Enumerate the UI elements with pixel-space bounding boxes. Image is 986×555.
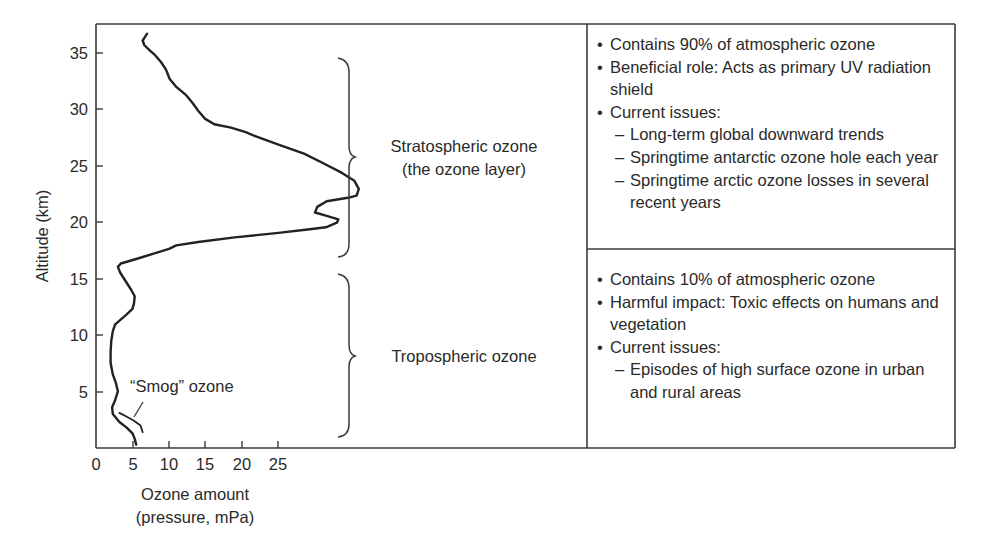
info-bullet: Current issues: — [597, 336, 949, 359]
y-axis-label: Altitude (km) — [33, 190, 51, 283]
stratosphere-label-line2: (the ozone layer) — [402, 160, 526, 178]
troposphere-label: Tropospheric ozone — [391, 347, 536, 365]
y-tick-label: 25 — [70, 157, 88, 175]
y-tick-label: 10 — [70, 326, 88, 344]
info-bullet: Contains 90% of atmospheric ozone — [597, 33, 949, 56]
info-subitem: Episodes of high surface ozone in urban … — [597, 358, 949, 403]
y-tick-label: 15 — [70, 270, 88, 288]
stratosphere-brace — [338, 58, 355, 257]
troposphere-brace — [338, 274, 355, 437]
stratosphere-label-line1: Stratospheric ozone — [391, 137, 538, 155]
y-tick-label: 35 — [70, 44, 88, 62]
x-tick-label: 10 — [160, 455, 178, 473]
x-axis-tick-labels: 0 5 10 15 20 25 — [91, 455, 287, 473]
tropospheric-info-panel: Contains 10% of atmospheric ozone Harmfu… — [597, 268, 949, 404]
x-tick-label: 15 — [196, 455, 214, 473]
y-tick-label: 30 — [70, 100, 88, 118]
info-bullet: Current issues: — [597, 101, 949, 124]
info-subitem: Springtime arctic ozone losses in severa… — [597, 169, 949, 214]
x-axis-label-line2: (pressure, mPa) — [136, 508, 254, 526]
info-bullet: Beneficial role: Acts as primary UV radi… — [597, 56, 949, 101]
x-tick-label: 5 — [128, 455, 137, 473]
smog-ozone-label: “Smog” ozone — [130, 377, 234, 395]
x-tick-label: 20 — [233, 455, 251, 473]
info-bullet: Harmful impact: Toxic effects on humans … — [597, 291, 949, 336]
y-tick-label: 20 — [70, 213, 88, 231]
y-axis-ticks — [96, 53, 103, 392]
info-subitem: Springtime antarctic ozone hole each yea… — [597, 146, 949, 169]
stratospheric-info-panel: Contains 90% of atmospheric ozone Benefi… — [597, 33, 949, 214]
y-tick-label: 5 — [79, 383, 88, 401]
smog-leader-line — [134, 402, 143, 417]
tropospheric-info-list: Contains 10% of atmospheric ozone Harmfu… — [597, 268, 949, 404]
info-bullet: Contains 10% of atmospheric ozone — [597, 268, 949, 291]
smog-ozone-line — [119, 413, 142, 432]
y-axis-tick-labels: 5 10 15 20 25 30 35 — [70, 44, 88, 401]
x-axis-ticks — [133, 441, 278, 448]
info-subitem: Long-term global downward trends — [597, 123, 949, 146]
x-tick-label: 0 — [91, 455, 100, 473]
stratospheric-info-list: Contains 90% of atmospheric ozone Benefi… — [597, 33, 949, 214]
x-axis-label-line1: Ozone amount — [141, 485, 250, 503]
x-tick-label: 25 — [269, 455, 287, 473]
